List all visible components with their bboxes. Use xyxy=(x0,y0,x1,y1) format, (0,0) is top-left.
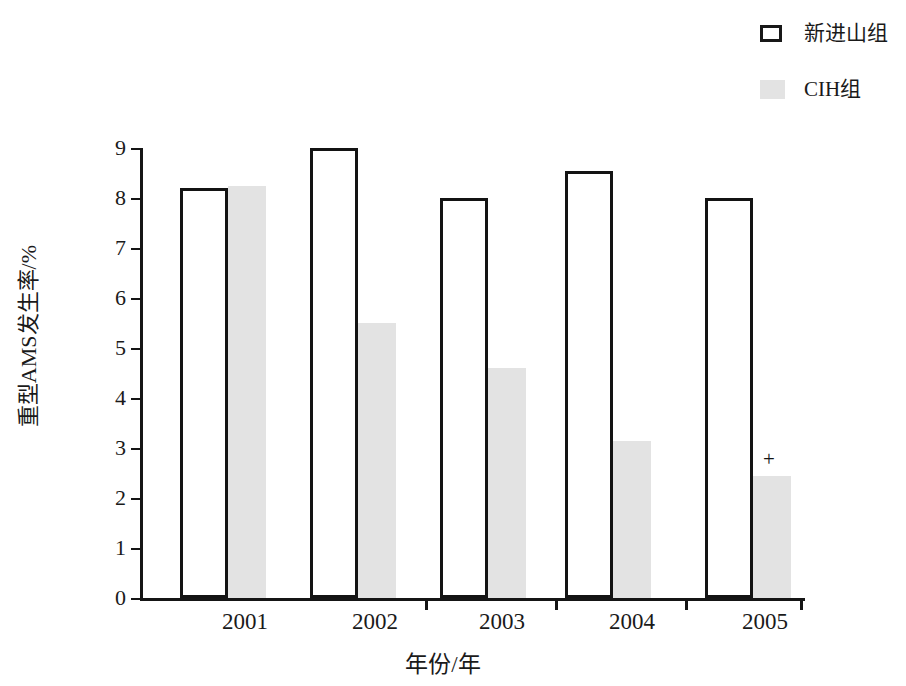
y-tick-label-5: 5 xyxy=(115,337,126,359)
significance-marker-2005: + xyxy=(763,449,775,470)
bar-chart-figure: 新进山组 CIH组 重型AMS发生率/% 0 1 2 3 4 xyxy=(0,0,906,686)
y-tick-label-8: 8 xyxy=(115,187,126,209)
legend-item-cih-group: CIH组 xyxy=(760,74,906,104)
legend-item-new-arrival-group: 新进山组 xyxy=(760,18,906,48)
bar-cih-group-2002 xyxy=(358,323,396,598)
x-axis-label-2004: 2004 xyxy=(609,610,655,633)
legend-label-new-arrival-group: 新进山组 xyxy=(804,23,888,44)
x-tick-separator-3 xyxy=(685,598,688,610)
y-axis-title: 重型AMS发生率/% xyxy=(10,245,42,427)
x-tick-separator-1 xyxy=(425,598,428,610)
bar-new-arrival-group-2001 xyxy=(180,188,228,598)
bar-new-arrival-group-2005 xyxy=(705,198,753,598)
white-box-swatch-icon xyxy=(760,25,782,42)
bar-new-arrival-group-2003 xyxy=(440,198,488,598)
y-tick-label-7: 7 xyxy=(115,237,126,259)
bar-cih-group-2004 xyxy=(613,441,651,599)
x-axis-line xyxy=(140,598,805,601)
y-tick-label-4: 4 xyxy=(115,387,126,409)
x-axis-label-2005: 2005 xyxy=(742,610,788,633)
x-axis-label-2001: 2001 xyxy=(222,610,268,633)
y-axis-line xyxy=(140,148,143,599)
y-tick-label-3: 3 xyxy=(115,437,126,459)
x-axis-label-2002: 2002 xyxy=(352,610,398,633)
x-axis-title: 年份/年 xyxy=(0,645,906,679)
y-tick-label-6: 6 xyxy=(115,287,126,309)
bar-new-arrival-group-2002 xyxy=(310,148,358,598)
gray-box-swatch-icon xyxy=(760,80,785,99)
y-tick-label-0: 0 xyxy=(115,587,126,609)
x-tick-separator-4 xyxy=(800,598,803,610)
bar-cih-group-2005 xyxy=(753,476,791,599)
y-tick-label-2: 2 xyxy=(115,487,126,509)
legend-label-cih-group: CIH组 xyxy=(804,79,861,100)
bar-cih-group-2001 xyxy=(228,186,266,599)
x-axis-title-text: 年份/年 xyxy=(405,645,480,679)
chart-legend: 新进山组 CIH组 xyxy=(760,12,906,104)
y-tick-label-9: 9 xyxy=(115,137,126,159)
y-tick-label-1: 1 xyxy=(115,537,126,559)
plot-area: 0 1 2 3 4 5 6 7 xyxy=(140,148,805,598)
x-tick-separator-2 xyxy=(555,598,558,610)
x-axis-label-2003: 2003 xyxy=(479,610,525,633)
bar-cih-group-2003 xyxy=(488,368,526,598)
bar-new-arrival-group-2004 xyxy=(565,171,613,599)
